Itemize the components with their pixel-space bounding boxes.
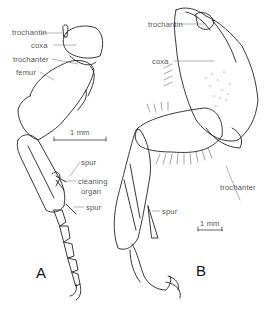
panel-label-b: B <box>196 263 206 278</box>
label-coxa-b: coxa <box>152 58 169 66</box>
panel-label-a: A <box>36 265 46 280</box>
label-coxa-a: coxa <box>31 42 48 50</box>
label-trochanter-a: trochanter <box>13 56 49 64</box>
tarsus-b <box>130 244 171 290</box>
label-spur-lower-a: spur <box>86 204 101 212</box>
coxa-b <box>175 8 259 141</box>
tibia-a <box>17 135 65 212</box>
scale-bar-label-b: 1 mm <box>200 220 220 228</box>
coxa-a <box>63 26 102 58</box>
scale-bar-a <box>54 137 106 141</box>
label-trochantin-a: trochantin <box>12 29 47 37</box>
femur-b <box>135 108 222 152</box>
label-spur-b: spur <box>162 208 177 216</box>
label-spur-upper-a: spur <box>81 159 96 167</box>
trochantin-a <box>63 25 68 37</box>
label-trochanter-b: trochanter <box>220 184 256 192</box>
label-trochantin-b: trochantin <box>148 21 183 29</box>
label-cleaning-organ-line2: organ <box>81 188 101 196</box>
scale-bar-label-a: 1 mm <box>70 129 90 137</box>
trochanter-b <box>206 128 242 148</box>
tibia-b <box>114 130 150 249</box>
label-cleaning-organ-line1: cleaning <box>78 178 108 186</box>
label-femur-a: femur <box>16 69 36 77</box>
tarsus-a <box>54 210 80 286</box>
